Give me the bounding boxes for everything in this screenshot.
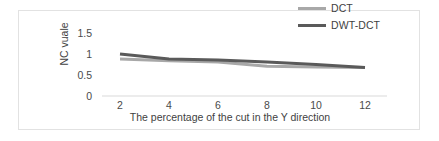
x-tick-label: 6 xyxy=(203,99,233,111)
y-tick-label: 1 xyxy=(34,49,92,59)
legend-label-dct: DCT xyxy=(331,2,353,14)
y-tick-label: 1.5 xyxy=(34,28,92,38)
x-tick-label: 10 xyxy=(301,99,331,111)
legend-item-dwt-dct[interactable]: DWT-DCT xyxy=(298,19,418,31)
legend-item-dct[interactable]: DCT xyxy=(298,2,418,14)
x-axis-title: The percentage of the cut in the Y direc… xyxy=(60,111,400,123)
x-tick-label: 12 xyxy=(350,99,380,111)
x-tick-label: 8 xyxy=(252,99,282,111)
legend-label-dwt-dct: DWT-DCT xyxy=(331,19,380,31)
legend-swatch-dct xyxy=(298,7,326,10)
legend-swatch-dwt-dct xyxy=(298,24,326,27)
y-tick-label: 0.5 xyxy=(34,70,92,80)
chart-legend: DCT DWT-DCT xyxy=(298,2,418,31)
x-tick-label: 4 xyxy=(154,99,184,111)
x-tick-label: 2 xyxy=(105,99,135,111)
